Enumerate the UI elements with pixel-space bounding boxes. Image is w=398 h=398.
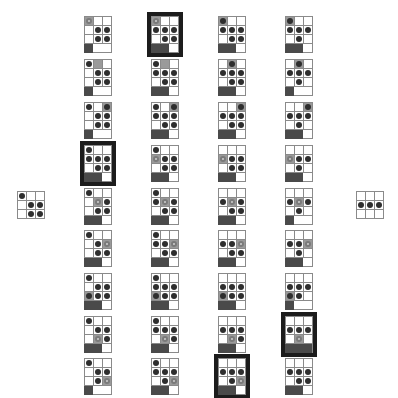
- board-cell: [228, 240, 237, 249]
- peg-dot-icon: [296, 284, 302, 290]
- board-cell: [304, 198, 313, 207]
- board-cell: [286, 121, 295, 130]
- board-cell: [103, 231, 112, 240]
- peg-dot-icon: [104, 208, 110, 214]
- board-grid: [151, 59, 179, 87]
- board-cell: [295, 326, 304, 335]
- board-cell: [304, 26, 313, 35]
- board-cell: [366, 210, 375, 219]
- progress-bar: [151, 386, 169, 395]
- board-cell: [286, 78, 295, 87]
- board-cell: [286, 249, 295, 258]
- board-cell: [295, 121, 304, 130]
- board-cell: [219, 112, 228, 121]
- peg-dot-icon: [153, 27, 159, 33]
- peg-dot-icon: [95, 284, 101, 290]
- peg-dot-icon: [220, 113, 226, 119]
- peg-dot-icon: [367, 202, 373, 208]
- board-cell: [237, 26, 246, 35]
- board-cell: [219, 17, 228, 26]
- progress-bar: [285, 258, 303, 267]
- peg-dot-icon: [305, 27, 311, 33]
- board-cell: [85, 17, 94, 26]
- board-cell: [375, 192, 384, 201]
- progress-bar: [285, 301, 294, 310]
- board-cell: [103, 35, 112, 44]
- board-cell: [94, 283, 103, 292]
- board-cell: [237, 164, 246, 173]
- board-cell: [94, 112, 103, 121]
- peg-dot-icon: [229, 122, 235, 128]
- peg-dot-icon: [153, 275, 159, 281]
- peg-dot-icon: [220, 199, 226, 205]
- board-cell: [304, 368, 313, 377]
- board-cell: [27, 210, 36, 219]
- board-cell: [228, 368, 237, 377]
- hole-ring-icon: [229, 199, 235, 205]
- peg-dot-icon: [296, 241, 302, 247]
- board-cell: [161, 326, 170, 335]
- hole-ring-icon: [171, 241, 177, 247]
- board-cell: [304, 146, 313, 155]
- board-cell: [170, 60, 179, 69]
- peg-dot-icon: [220, 27, 226, 33]
- peg-dot-icon: [296, 369, 302, 375]
- highlighted-state-card: [218, 358, 246, 395]
- board-cell: [219, 377, 228, 386]
- progress-bar: [84, 87, 93, 96]
- progress-bar: [218, 216, 236, 225]
- board-grid: [285, 59, 313, 87]
- peg-dot-icon: [229, 378, 235, 384]
- board-cell: [286, 326, 295, 335]
- board-cell: [304, 69, 313, 78]
- board-cell: [103, 164, 112, 173]
- board-cell: [103, 359, 112, 368]
- peg-dot-icon: [238, 284, 244, 290]
- state-card: [285, 16, 313, 53]
- state-card: [151, 358, 179, 395]
- board-cell: [85, 146, 94, 155]
- peg-dot-icon: [95, 79, 101, 85]
- board-cell: [85, 189, 94, 198]
- board-cell: [286, 189, 295, 198]
- board-cell: [152, 249, 161, 258]
- peg-dot-icon: [229, 113, 235, 119]
- board-cell: [170, 164, 179, 173]
- board-cell: [228, 155, 237, 164]
- board-cell: [295, 240, 304, 249]
- board-cell: [219, 249, 228, 258]
- board-cell: [286, 164, 295, 173]
- board-cell: [152, 112, 161, 121]
- board-cell: [295, 164, 304, 173]
- peg-dot-icon: [296, 122, 302, 128]
- board-cell: [219, 164, 228, 173]
- board-cell: [228, 17, 237, 26]
- board-cell: [304, 274, 313, 283]
- peg-dot-icon: [171, 70, 177, 76]
- board-cell: [94, 164, 103, 173]
- peg-dot-icon: [305, 199, 311, 205]
- board-cell: [228, 103, 237, 112]
- board-cell: [219, 121, 228, 130]
- board-cell: [295, 60, 304, 69]
- peg-dot-icon: [296, 327, 302, 333]
- board-cell: [152, 121, 161, 130]
- peg-dot-icon: [153, 327, 159, 333]
- peg-dot-icon: [37, 211, 43, 217]
- board-cell: [170, 112, 179, 121]
- board-cell: [237, 189, 246, 198]
- peg-dot-icon: [95, 27, 101, 33]
- progress-bar: [218, 87, 236, 96]
- peg-dot-icon: [104, 199, 110, 205]
- board-cell: [295, 112, 304, 121]
- progress-bar: [218, 386, 236, 395]
- state-card: [285, 145, 313, 182]
- board-cell: [27, 192, 36, 201]
- board-cell: [304, 377, 313, 386]
- board-cell: [152, 60, 161, 69]
- board-cell: [170, 35, 179, 44]
- peg-dot-icon: [86, 232, 92, 238]
- board-cell: [161, 231, 170, 240]
- board-cell: [286, 103, 295, 112]
- board-cell: [94, 207, 103, 216]
